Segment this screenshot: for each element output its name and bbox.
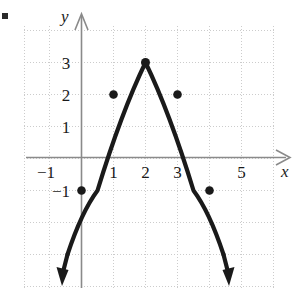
y-tick-label-3: 3 [58,55,74,72]
point-1-2 [109,90,118,99]
point-3-2 [173,90,182,99]
point-4--1 [205,186,214,195]
y-tick-label-1: 1 [58,119,74,136]
point-0--1 [77,186,86,195]
x-tick-label-5: 5 [232,164,251,181]
x-tick-label-3: 3 [168,164,187,181]
graph-canvas [0,0,297,294]
x-tick-label--1: −1 [36,164,56,181]
parabola-graph-figure: y x −1 1 2 3 5 3 2 1 −1 [0,0,297,294]
x-tick-label-1: 1 [104,164,123,181]
x-axis-label: x [281,163,289,180]
y-axis-label: y [61,8,69,25]
x-tick-label-2: 2 [136,164,155,181]
y-tick-label-2: 2 [58,87,74,104]
y-tick-label--1: −1 [48,183,74,200]
point-2-3 [141,58,150,67]
